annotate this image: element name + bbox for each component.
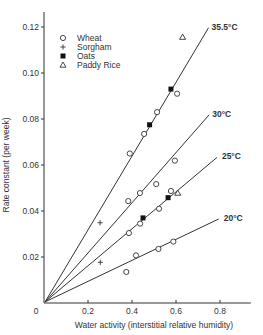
- data-points: [98, 34, 186, 274]
- series-oats: [141, 87, 174, 221]
- x-axis-title: Water activity (interstitial relative hu…: [75, 320, 234, 330]
- y-tick-label: 0.06: [22, 160, 39, 170]
- fit-line-label: 25°C: [222, 151, 241, 161]
- data-point: [98, 220, 103, 225]
- fit-line-label: 20°C: [224, 213, 243, 223]
- data-point: [142, 131, 147, 136]
- data-point: [141, 215, 146, 220]
- legend-marker-icon: [60, 35, 65, 40]
- data-point: [147, 122, 152, 127]
- y-tick-label: 0.04: [22, 206, 39, 216]
- legend-item: Paddy Rice: [60, 60, 121, 70]
- x-tick-label: 0.2: [82, 306, 94, 316]
- data-point: [154, 181, 159, 186]
- fit-line-label: 35.5°C: [212, 22, 238, 32]
- rate-constant-chart: 0.020.040.060.080.100.1200.20.40.60.8 35…: [0, 0, 263, 335]
- data-point: [126, 230, 131, 235]
- data-point: [172, 158, 177, 163]
- data-point: [166, 195, 171, 200]
- y-axis-title: Rate constant (per week): [1, 117, 11, 212]
- legend-marker-icon: [60, 62, 66, 67]
- data-point: [138, 221, 143, 226]
- legend-marker-icon: [60, 44, 65, 49]
- y-tick-label: 0.12: [22, 22, 39, 32]
- series-paddy-rice: [175, 34, 186, 195]
- data-point: [127, 151, 132, 156]
- data-point: [137, 190, 142, 195]
- y-tick-label: 0.02: [22, 252, 39, 262]
- fit-line: [45, 157, 217, 301]
- series-wheat: [124, 91, 180, 274]
- legend-label: Paddy Rice: [77, 60, 121, 70]
- y-tick-label: 0.10: [22, 68, 39, 78]
- data-point: [124, 269, 129, 274]
- data-point: [180, 34, 186, 39]
- data-point: [168, 87, 173, 92]
- series-sorgham: [98, 220, 103, 265]
- data-point: [126, 199, 131, 204]
- data-point: [168, 188, 173, 193]
- fit-lines: 35.5°C30°C25°C20°C: [45, 22, 243, 302]
- data-point: [156, 246, 161, 251]
- legend-marker-icon: [61, 54, 66, 59]
- x-tick-label: 0: [34, 306, 39, 316]
- fit-line: [45, 219, 219, 302]
- data-point: [175, 91, 180, 96]
- fit-line-label: 30°C: [212, 109, 231, 119]
- data-point: [156, 206, 161, 211]
- data-point: [98, 260, 103, 265]
- data-point: [154, 110, 159, 115]
- axes: 0.020.040.060.080.100.1200.20.40.60.8: [22, 12, 250, 316]
- x-tick-label: 0.4: [126, 306, 138, 316]
- data-point: [133, 253, 138, 258]
- chart-container: 0.020.040.060.080.100.1200.20.40.60.8 35…: [0, 0, 263, 335]
- fit-line: [45, 28, 208, 302]
- x-tick-label: 0.6: [170, 306, 182, 316]
- x-tick-label: 0.8: [214, 306, 226, 316]
- data-point: [171, 239, 176, 244]
- y-tick-label: 0.08: [22, 114, 39, 124]
- legend: WheatSorghamOatsPaddy Rice: [60, 33, 121, 70]
